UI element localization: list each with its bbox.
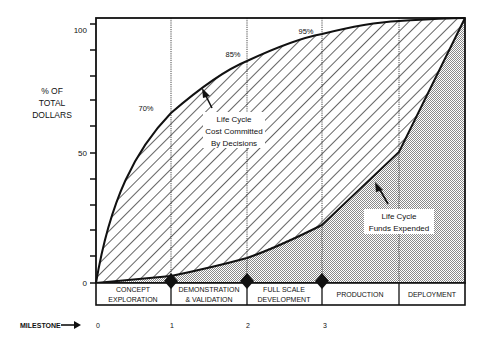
phase-deployment: DEPLOYMENT [408, 291, 457, 298]
annotation-95pct: 95% [298, 27, 313, 36]
life-cycle-cost-chart: CONCEPT EXPLORATION DEMONSTRATION & VALI… [0, 0, 488, 349]
ylabel-line3: DOLLARS [32, 110, 72, 120]
committed-label-line3: By Decisions [211, 139, 257, 148]
annotation-85pct: 85% [225, 50, 240, 59]
expended-label-line2: Funds Expended [369, 224, 430, 233]
committed-label-line2: Cost Committed [205, 127, 262, 136]
annotation-70pct: 70% [138, 104, 153, 113]
milestone-3: 3 [323, 322, 327, 329]
ytick-100: 100 [74, 26, 88, 35]
committed-label-line1: Life Cycle [216, 115, 252, 124]
phase-production: PRODUCTION [336, 291, 383, 298]
milestone-2: 2 [246, 322, 250, 329]
phase-fsd-line1: FULL SCALE [263, 286, 305, 293]
phase-fsd-line2: DEVELOPMENT [258, 296, 312, 303]
phase-concept-line2: EXPLORATION [108, 296, 157, 303]
milestone-arrow-icon [61, 321, 81, 329]
ytick-0: 0 [83, 279, 88, 288]
phase-demval-line2: & VALIDATION [185, 296, 232, 303]
expended-label-line1: Life Cycle [381, 212, 417, 221]
milestone-label: MILESTONE [20, 322, 61, 329]
milestone-0: 0 [96, 322, 100, 329]
ylabel-line1: % OF [41, 86, 63, 96]
phase-concept-line1: CONCEPT [116, 286, 151, 293]
milestone-1: 1 [170, 322, 174, 329]
phase-demval-line1: DEMONSTRATION [179, 286, 240, 293]
ytick-50: 50 [78, 149, 87, 158]
ylabel-line2: TOTAL [39, 98, 66, 108]
